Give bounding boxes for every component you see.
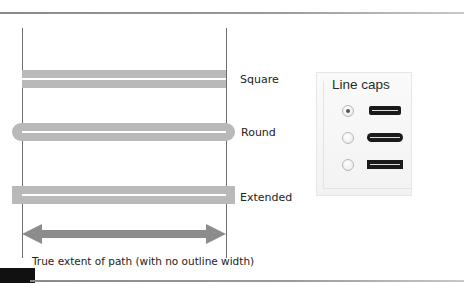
panel-title: Line caps [332, 77, 390, 92]
double-arrow-icon [20, 222, 230, 246]
round-cap-icon[interactable] [367, 133, 403, 142]
projecting-cap-radio[interactable] [342, 159, 354, 171]
bottom-rule [30, 280, 464, 282]
cap-centerline [370, 164, 400, 165]
path-centerline [22, 131, 226, 133]
path-centerline [22, 78, 226, 80]
top-rule [0, 12, 464, 14]
round-label: Round [241, 126, 276, 139]
square-cap-stroke [22, 70, 226, 88]
butt-cap-radio[interactable] [342, 105, 354, 117]
line-caps-panel: Line caps [316, 72, 412, 196]
round-cap-stroke [12, 123, 235, 141]
extended-label: Extended [240, 191, 292, 204]
square-label: Square [240, 73, 279, 86]
round-cap-radio[interactable] [342, 132, 354, 144]
butt-cap-icon[interactable] [369, 106, 401, 115]
path-centerline [22, 194, 226, 196]
extended-cap-stroke [12, 186, 235, 204]
cap-centerline [372, 110, 398, 111]
cap-centerline [370, 137, 400, 138]
path-extent-caption: True extent of path (with no outline wid… [32, 255, 254, 267]
projecting-cap-icon[interactable] [367, 160, 403, 169]
